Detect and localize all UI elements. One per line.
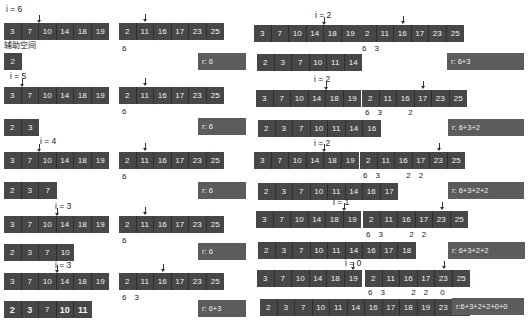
array-b: 21116172325 (360, 152, 465, 169)
array-cell: 11 (378, 152, 396, 169)
aux-array: 23710111416 (258, 120, 381, 137)
array-cell: 2 (4, 182, 22, 199)
array-cell: 3 (276, 183, 294, 200)
array-cell: 14 (309, 211, 327, 228)
array-cell: 17 (381, 183, 399, 200)
array-a: 3710141819 (4, 273, 109, 290)
array-b: 21116172325 (359, 25, 464, 42)
array-cell: 2 (362, 90, 380, 107)
array-cell: 18 (74, 216, 92, 233)
aux-array: 23710 (4, 244, 74, 261)
result-box: r: 6+3+2+2 (448, 182, 524, 199)
array-cell: 16 (154, 152, 172, 169)
array-cell: 18 (74, 23, 92, 40)
array-cell: 23 (189, 152, 207, 169)
inversion-count: 3 (378, 108, 382, 117)
inversion-count: 6 (122, 236, 126, 245)
pointer-arrow-icon (439, 143, 440, 150)
array-cell: 2 (258, 120, 276, 137)
pointer-arrow-icon (39, 15, 40, 22)
inversion-count: 6 (122, 44, 126, 53)
array-cell: 11 (381, 211, 399, 228)
array-cell: 16 (154, 273, 172, 290)
array-cell: 10 (39, 87, 57, 104)
array-b: 21116172325 (119, 23, 224, 40)
pointer-arrow-icon (442, 202, 443, 209)
array-cell: 18 (400, 299, 418, 316)
pointer-arrow-icon (324, 144, 325, 151)
aux-array: 2 (4, 53, 22, 70)
array-b: 21116172325 (119, 273, 224, 290)
array-cell: 25 (447, 25, 465, 42)
array-cell: 3 (4, 152, 22, 169)
array-cell: 2 (363, 211, 381, 228)
array-cell: 25 (207, 23, 225, 40)
array-cell: 10 (289, 25, 307, 42)
array-a: 3710141819 (256, 211, 361, 228)
inversion-count: 6 (122, 293, 126, 302)
array-cell: 17 (172, 23, 190, 40)
array-cell: 16 (154, 87, 172, 104)
array-cell: 17 (415, 90, 433, 107)
aux-space-caption: 辅助空间 (4, 39, 36, 50)
array-cell: 23 (435, 299, 453, 316)
array-a: 3710141819 (257, 270, 362, 287)
pointer-arrow-icon (444, 261, 445, 268)
array-cell: 2 (257, 54, 275, 71)
array-cell: 2 (260, 299, 278, 316)
array-cell: 16 (154, 23, 172, 40)
array-cell: 10 (311, 120, 329, 137)
array-cell: 3 (257, 270, 275, 287)
array-cell: 19 (342, 25, 360, 42)
array-cell: 17 (383, 299, 401, 316)
array-cell: 17 (172, 152, 190, 169)
array-cell: 14 (310, 270, 328, 287)
array-b: 21116172325 (119, 87, 224, 104)
array-cell: 18 (74, 152, 92, 169)
aux-array: 237101114 (257, 54, 362, 71)
array-cell: 11 (137, 23, 155, 40)
array-cell: 23 (429, 25, 447, 42)
index-label: i = 5 (10, 71, 26, 81)
array-cell: 19 (92, 273, 110, 290)
pointer-arrow-icon (57, 265, 58, 272)
array-cell: 23 (430, 152, 448, 169)
array-b: 21116172325 (119, 152, 224, 169)
array-cell: 7 (272, 25, 290, 42)
array-cell: 16 (395, 152, 413, 169)
array-cell: 14 (309, 90, 327, 107)
array-cell: 2 (119, 273, 137, 290)
aux-array: 237101114161718192325 (260, 299, 470, 316)
array-cell: 23 (433, 211, 451, 228)
array-cell: 3 (22, 301, 40, 318)
array-cell: 3 (22, 119, 40, 136)
array-cell: 16 (397, 90, 415, 107)
index-label: i = 1 (333, 197, 349, 207)
array-cell: 7 (22, 87, 40, 104)
array-a: 3710141819 (256, 90, 361, 107)
array-cell: 2 (360, 152, 378, 169)
array-cell: 3 (254, 152, 272, 169)
array-cell: 19 (344, 211, 362, 228)
result-box: r: 6 (198, 243, 246, 260)
array-cell: 14 (57, 87, 75, 104)
array-cell: 11 (328, 120, 346, 137)
pointer-arrow-icon (145, 143, 146, 150)
array-cell: 7 (293, 120, 311, 137)
aux-array: 237 (4, 182, 57, 199)
result-box: r: 6+3+2+2 (448, 242, 525, 259)
array-cell: 14 (345, 54, 363, 71)
inversion-count: 3 (379, 230, 383, 239)
array-cell: 17 (381, 242, 399, 259)
array-cell: 23 (435, 270, 453, 287)
array-cell: 7 (22, 216, 40, 233)
array-cell: 2 (119, 152, 137, 169)
inversion-count: 6 (368, 288, 372, 297)
array-cell: 3 (276, 120, 294, 137)
array-cell: 14 (57, 216, 75, 233)
aux-array: 2371011 (4, 301, 92, 318)
array-cell: 25 (207, 152, 225, 169)
array-cell: 19 (92, 216, 110, 233)
array-cell: 2 (119, 216, 137, 233)
inversion-count: 6 (122, 107, 126, 116)
